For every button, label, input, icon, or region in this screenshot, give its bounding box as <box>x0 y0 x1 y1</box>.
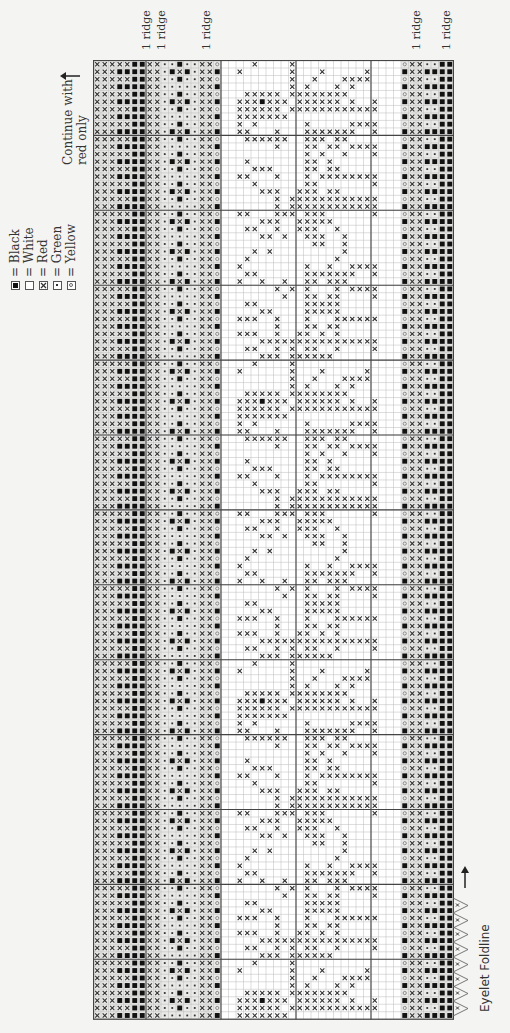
stitch-green <box>179 505 181 507</box>
stitch-black <box>402 189 407 194</box>
stitch-green <box>434 618 436 620</box>
stitch-black <box>125 893 130 898</box>
stitch-black <box>132 361 137 366</box>
stitch-black <box>132 721 137 726</box>
stitch-green <box>426 1007 428 1009</box>
stitch-black <box>402 279 407 284</box>
stitch-green <box>194 243 196 245</box>
stitch-green <box>186 902 188 904</box>
stitch-green <box>164 790 166 792</box>
stitch-green <box>434 288 436 290</box>
stitch-black <box>140 953 145 958</box>
stitch-black <box>402 234 407 239</box>
stitch-black <box>140 773 145 778</box>
stitch-black <box>140 249 145 254</box>
stitch-black <box>432 968 437 973</box>
stitch-green <box>186 543 188 545</box>
eyelet-icon <box>453 942 469 957</box>
stitch-black <box>140 316 145 321</box>
stitch-black <box>125 698 130 703</box>
legend-item-white: = White <box>22 227 36 290</box>
stitch-black <box>402 923 407 928</box>
stitch-green <box>194 618 196 620</box>
stitch-black <box>440 541 445 546</box>
stitch-black <box>440 421 445 426</box>
stitch-green <box>194 513 196 515</box>
stitch-green <box>164 385 166 387</box>
stitch-black <box>440 504 445 509</box>
stitch-black <box>425 324 430 329</box>
stitch-green <box>194 895 196 897</box>
stitch-black <box>447 646 452 651</box>
stitch-black <box>425 504 430 509</box>
stitch-green <box>194 1007 196 1009</box>
stitch-green <box>194 678 196 680</box>
stitch-black <box>447 766 452 771</box>
stitch-black <box>447 938 452 943</box>
stitch-black <box>215 564 220 569</box>
stitch-green <box>186 236 188 238</box>
stitch-black <box>402 534 407 539</box>
stitch-black <box>117 339 122 344</box>
stitch-green <box>164 895 166 897</box>
stitch-black <box>440 92 445 97</box>
stitch-green <box>171 887 173 889</box>
stitch-black <box>402 713 407 718</box>
stitch-black <box>215 324 220 329</box>
stitch-black <box>140 938 145 943</box>
stitch-black <box>447 451 452 456</box>
stitch-black <box>125 758 130 763</box>
stitch-green <box>434 348 436 350</box>
stitch-green <box>164 445 166 447</box>
stitch-green <box>186 558 188 560</box>
stitch-black <box>402 683 407 688</box>
stitch-green <box>171 573 173 575</box>
stitch-black <box>447 489 452 494</box>
stitch-black <box>177 706 182 711</box>
stitch-green <box>164 86 166 88</box>
stitch-green <box>434 393 436 395</box>
red-symbol-icon <box>39 281 48 290</box>
stitch-black <box>177 287 182 292</box>
stitch-black <box>125 923 130 928</box>
stitch-green <box>194 258 196 260</box>
stitch-green <box>164 423 166 425</box>
stitch-black <box>425 264 430 269</box>
stitch-black <box>402 863 407 868</box>
stitch-black <box>432 893 437 898</box>
stitch-black <box>432 788 437 793</box>
stitch-black <box>447 668 452 673</box>
stitch-black <box>447 391 452 396</box>
stitch-black <box>185 698 190 703</box>
stitch-black <box>447 781 452 786</box>
stitch-black <box>215 84 220 89</box>
stitch-green <box>171 707 173 709</box>
stitch-black <box>432 743 437 748</box>
stitch-black <box>132 728 137 733</box>
stitch-black <box>132 639 137 644</box>
stitch-black <box>125 743 130 748</box>
stitch-black <box>425 938 430 943</box>
stitch-green <box>171 962 173 964</box>
stitch-black <box>177 122 182 127</box>
stitch-green <box>179 535 181 537</box>
stitch-black <box>117 654 122 659</box>
stitch-black <box>132 242 137 247</box>
stitch-black <box>440 77 445 82</box>
stitch-black <box>132 609 137 614</box>
stitch-green <box>164 378 166 380</box>
stitch-black <box>177 586 182 591</box>
stitch-black <box>125 489 130 494</box>
stitch-green <box>171 475 173 477</box>
stitch-green <box>164 251 166 253</box>
stitch-green <box>194 161 196 163</box>
stitch-green <box>171 363 173 365</box>
stitch-black <box>425 893 430 898</box>
stitch-black <box>132 691 137 696</box>
stitch-black <box>440 571 445 576</box>
stitch-green <box>171 857 173 859</box>
stitch-black <box>447 107 452 112</box>
stitch-black <box>215 489 220 494</box>
stitch-black <box>432 908 437 913</box>
stitch-green <box>186 812 188 814</box>
